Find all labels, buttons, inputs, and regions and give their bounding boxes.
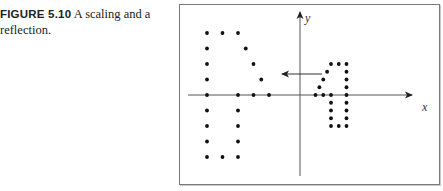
data-point <box>345 85 349 89</box>
data-point <box>345 116 349 120</box>
data-point <box>205 93 209 97</box>
data-point <box>236 109 240 113</box>
data-point <box>221 31 225 35</box>
data-point <box>205 155 209 159</box>
data-point <box>329 101 333 105</box>
data-point <box>267 93 271 97</box>
data-point <box>205 47 209 51</box>
data-point <box>329 62 333 66</box>
data-point <box>205 31 209 35</box>
data-point <box>345 70 349 74</box>
data-point <box>325 70 329 74</box>
x-axis-label: x <box>421 100 428 114</box>
data-point <box>244 47 248 51</box>
data-point <box>205 140 209 144</box>
data-point <box>205 109 209 113</box>
data-point <box>345 93 349 97</box>
data-point <box>345 62 349 66</box>
data-point <box>236 31 240 35</box>
data-point <box>337 124 341 128</box>
data-point <box>205 62 209 66</box>
data-point <box>321 93 325 97</box>
data-point <box>345 124 349 128</box>
data-point <box>314 93 318 97</box>
data-point <box>259 78 263 82</box>
data-point <box>345 101 349 105</box>
data-point <box>345 78 349 82</box>
data-point <box>345 109 349 113</box>
data-point <box>317 85 321 89</box>
data-point <box>221 155 225 159</box>
data-point <box>236 93 240 97</box>
data-point <box>252 62 256 66</box>
data-point <box>236 140 240 144</box>
data-point <box>329 109 333 113</box>
data-point <box>337 62 341 66</box>
data-point <box>329 124 333 128</box>
data-point <box>252 93 256 97</box>
data-point <box>236 124 240 128</box>
y-axis-label: y <box>304 11 311 25</box>
data-point <box>329 116 333 120</box>
data-point <box>205 78 209 82</box>
data-point <box>321 78 325 82</box>
data-point <box>329 93 333 97</box>
scatter-plot: y x <box>0 0 443 191</box>
data-point <box>236 155 240 159</box>
data-point <box>205 124 209 128</box>
